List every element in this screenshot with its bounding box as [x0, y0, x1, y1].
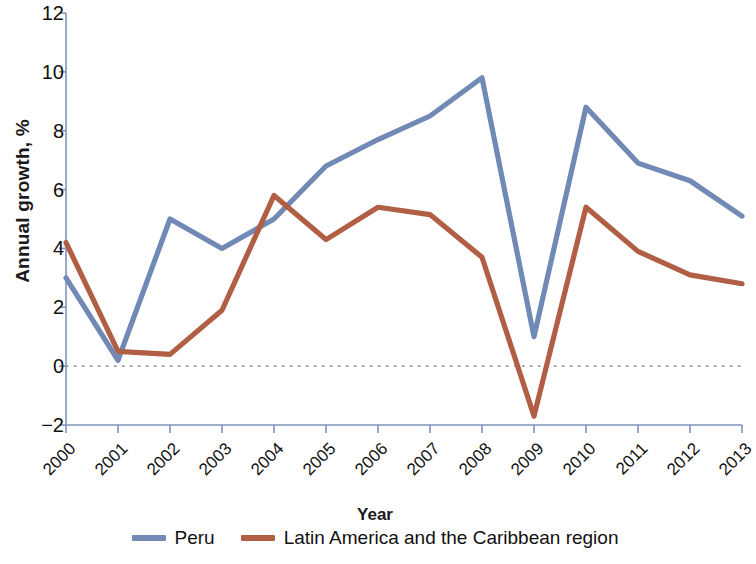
- chart-legend: PeruLatin America and the Caribbean regi…: [0, 527, 750, 549]
- legend-label: Peru: [175, 527, 215, 549]
- x-axis-label: Year: [0, 505, 750, 525]
- x-axis-tick-label: 2001: [85, 439, 132, 486]
- x-axis-tick-label: 2006: [345, 439, 392, 486]
- x-axis-tick-label: 2013: [709, 439, 756, 486]
- x-axis-tick-label: 2000: [33, 439, 80, 486]
- x-axis-tick-label: 2002: [137, 439, 184, 486]
- legend-swatch-icon: [132, 535, 166, 541]
- legend-item[interactable]: Peru: [132, 527, 215, 549]
- legend-swatch-icon: [241, 535, 275, 541]
- x-axis-tick-label: 2012: [657, 439, 704, 486]
- x-axis-tick-label: 2005: [293, 439, 340, 486]
- legend-label: Latin America and the Caribbean region: [284, 527, 619, 549]
- x-axis-tick-label: 2010: [553, 439, 600, 486]
- x-axis-tick-label: 2009: [501, 439, 548, 486]
- x-axis-tick-label: 2008: [449, 439, 496, 486]
- legend-item[interactable]: Latin America and the Caribbean region: [241, 527, 619, 549]
- x-axis-tick-label: 2011: [605, 439, 652, 486]
- x-axis-tick-label: 2007: [397, 439, 444, 486]
- x-axis-tick-label: 2003: [189, 439, 236, 486]
- x-axis-tick-label: 2004: [241, 439, 288, 486]
